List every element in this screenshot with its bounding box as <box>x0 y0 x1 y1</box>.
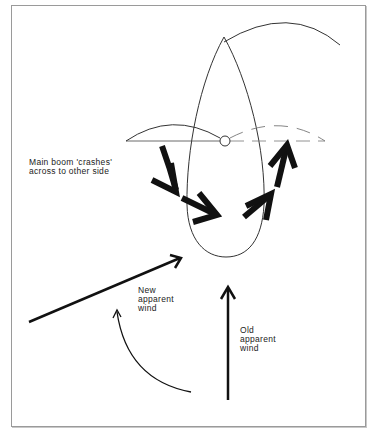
mast-pivot <box>220 136 230 146</box>
old-wind-label-line-3: wind <box>240 344 276 353</box>
hull-outline <box>187 37 264 257</box>
wind-shift-arrow <box>113 310 191 392</box>
old-apparent-wind-arrow <box>221 287 235 400</box>
old-boom-arc <box>126 125 220 141</box>
mainsail-arc <box>224 23 340 45</box>
new-wind-label-line-3: wind <box>138 304 174 313</box>
boom-label-line-2: across to other side <box>29 167 112 176</box>
old-apparent-wind-label: Old apparent wind <box>240 326 276 353</box>
boom-arrow-1 <box>152 146 176 192</box>
boom-motion-arrows <box>152 145 295 222</box>
boom-arrow-3 <box>244 194 271 220</box>
new-apparent-wind-label: New apparent wind <box>138 286 174 313</box>
gybe-diagram <box>0 0 376 437</box>
boom-arrow-4 <box>270 145 295 187</box>
new-boom-arc <box>230 126 325 141</box>
boom-crash-label: Main boom 'crashes' across to other side <box>29 158 112 176</box>
